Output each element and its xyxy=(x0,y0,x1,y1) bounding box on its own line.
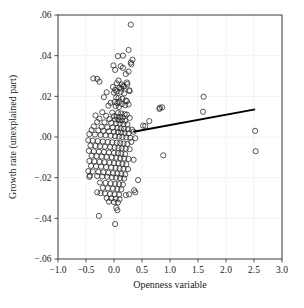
y-axis-title: Growth rate (unexplained part) xyxy=(7,75,19,199)
x-tick-label: 1.5 xyxy=(192,265,204,275)
x-axis-title: Openness variable xyxy=(133,279,207,290)
y-tick-label: .02 xyxy=(40,92,52,102)
y-tick-label: .04 xyxy=(40,51,52,61)
y-tick-label: −.02 xyxy=(34,173,51,183)
scatter-plot: −1.0−0.50.00.51.01.52.02.53.0 −.06−.04−.… xyxy=(0,0,304,308)
y-tick-label: .00 xyxy=(40,132,52,142)
y-tick-label: .06 xyxy=(40,10,52,20)
figure-container: −1.0−0.50.00.51.01.52.02.53.0 −.06−.04−.… xyxy=(0,0,304,308)
y-tick-label: −.04 xyxy=(34,214,51,224)
x-tick-label: 2.0 xyxy=(220,265,232,275)
x-tick-label: −0.5 xyxy=(77,265,94,275)
x-tick-label: 3.0 xyxy=(276,265,288,275)
x-tick-label: 0.0 xyxy=(108,265,120,275)
x-tick-label: −1.0 xyxy=(49,265,66,275)
x-tick-label: 1.0 xyxy=(164,265,176,275)
x-tick-label: 2.5 xyxy=(248,265,260,275)
x-axis-tick-labels: −1.0−0.50.00.51.01.52.02.53.0 xyxy=(49,265,288,275)
x-tick-label: 0.5 xyxy=(136,265,148,275)
y-tick-label: −.06 xyxy=(34,254,51,264)
